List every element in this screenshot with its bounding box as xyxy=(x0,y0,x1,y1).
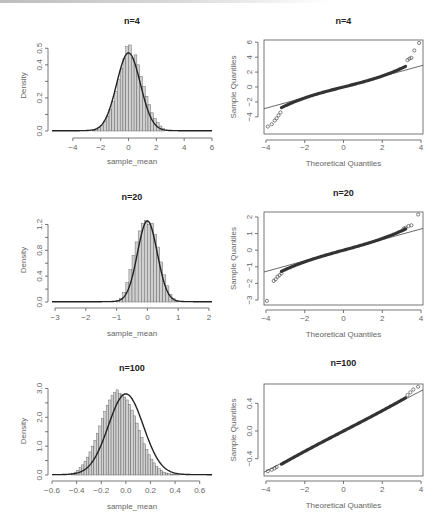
histogram-bar xyxy=(111,396,113,475)
x-tick-label: −4 xyxy=(261,485,271,494)
y-tick-label: 3.0 xyxy=(35,382,44,394)
histogram-bar xyxy=(106,405,108,475)
qq-point xyxy=(277,114,280,117)
histogram-bar xyxy=(106,116,109,131)
y-tick-label: 0.0 xyxy=(245,425,254,437)
qq-point xyxy=(275,117,278,120)
histogram-bar xyxy=(126,47,129,131)
histogram-bar xyxy=(146,450,148,475)
qq-point xyxy=(270,123,273,126)
histogram-bar xyxy=(121,395,123,475)
histogram-bar xyxy=(168,474,170,475)
x-tick-label: −2 xyxy=(300,485,310,494)
x-axis-label: sample_mean xyxy=(107,502,157,511)
histogram-bar xyxy=(123,58,126,131)
x-tick-label: 2 xyxy=(380,485,385,494)
x-tick-label: −0.4 xyxy=(69,486,85,495)
chart-title: n=100 xyxy=(119,363,145,373)
y-tick-label: −2 xyxy=(245,97,254,107)
histogram-bar xyxy=(131,58,134,131)
histogram-bar xyxy=(136,423,138,475)
y-tick-label: 0.4 xyxy=(35,59,44,71)
x-tick-label: 2 xyxy=(380,143,385,152)
histogram-bar xyxy=(148,455,150,475)
x-tick-label: −2 xyxy=(300,314,310,323)
histogram-bar xyxy=(138,430,140,475)
y-tick-label: 1.0 xyxy=(35,440,44,452)
histogram-bar xyxy=(129,45,132,131)
panel-hist_n4: n=4−4−20246sample_mean0.00.20.40.5Densit… xyxy=(19,16,215,166)
x-axis-label: Theoretical Quantiles xyxy=(306,159,382,168)
histogram-bar xyxy=(133,416,135,475)
y-tick-label: 0.0 xyxy=(35,125,44,137)
y-tick-label: 1 xyxy=(245,231,254,236)
y-axis-label: Density xyxy=(19,247,28,274)
qq-point xyxy=(410,224,413,227)
qq-point xyxy=(279,111,282,114)
histogram-bar xyxy=(143,444,145,475)
chart-canvas: n=4−4−20246sample_mean0.00.20.40.5Densit… xyxy=(0,0,442,522)
histogram-bar xyxy=(126,400,128,475)
histogram-bar xyxy=(147,224,150,302)
x-tick-label: −0.6 xyxy=(44,486,60,495)
x-tick-label: 0.4 xyxy=(170,486,182,495)
x-tick-label: 0.2 xyxy=(145,486,157,495)
y-tick-label: 0.2 xyxy=(35,92,44,104)
x-tick-label: 1 xyxy=(176,313,181,322)
x-tick-label: 0.0 xyxy=(120,486,132,495)
y-tick-label: 0.8 xyxy=(35,244,44,256)
histogram-bar xyxy=(123,397,125,475)
histogram-bar xyxy=(150,459,152,475)
x-tick-label: −2 xyxy=(81,313,91,322)
histogram-bar xyxy=(160,471,162,475)
y-tick-label: 2 xyxy=(245,69,254,74)
x-tick-label: 2 xyxy=(154,143,159,152)
histogram-bar xyxy=(109,400,111,475)
qq-point xyxy=(417,213,420,216)
x-tick-label: 0 xyxy=(341,485,346,494)
y-tick-label: 0.4 xyxy=(245,397,254,409)
qq-point-cloud xyxy=(281,398,405,464)
y-axis-label: Density xyxy=(19,72,28,99)
x-tick-label: 0 xyxy=(341,314,346,323)
y-tick-label: 0.4 xyxy=(35,270,44,282)
chart-title: n=20 xyxy=(333,188,354,198)
y-tick-label: 0.0 xyxy=(35,296,44,308)
x-tick-label: 0 xyxy=(126,143,131,152)
y-tick-label: 4 xyxy=(245,54,254,59)
qq-point xyxy=(412,388,415,391)
y-tick-label: 0 xyxy=(245,247,254,252)
qq-point xyxy=(265,299,268,302)
histogram-bar xyxy=(128,404,130,475)
x-axis-label: sample_mean xyxy=(107,329,157,338)
qq-point xyxy=(266,125,269,128)
histogram-bar xyxy=(170,474,172,475)
histogram-bar xyxy=(165,473,167,475)
panel-qq_n20: n=20−4−2024Theoretical Quantiles−3−2−101… xyxy=(229,188,424,339)
histogram-bar xyxy=(153,463,155,475)
histogram-bar xyxy=(173,474,175,475)
histogram-bar xyxy=(155,466,157,475)
y-tick-label: 2.0 xyxy=(35,411,44,423)
chart-title: n=100 xyxy=(331,358,357,368)
y-tick-label: 1.2 xyxy=(35,218,44,230)
x-tick-label: 4 xyxy=(182,143,187,152)
x-tick-label: 6 xyxy=(210,143,215,152)
y-tick-label: 2 xyxy=(245,214,254,219)
panel-qq_n4: n=4−4−2024Theoretical Quantiles−4−20246S… xyxy=(229,16,424,168)
panel-hist_n100: n=100−0.6−0.4−0.20.00.20.40.6sample_mean… xyxy=(19,363,212,511)
chart-title: n=20 xyxy=(122,192,143,202)
panel-hist_n20: n=20−3−2−1012sample_mean0.00.40.81.2Dens… xyxy=(19,192,212,338)
y-tick-label: −3 xyxy=(245,295,254,305)
histogram-bar xyxy=(131,410,133,475)
x-tick-label: −4 xyxy=(261,143,271,152)
x-axis-label: Theoretical Quantiles xyxy=(306,501,382,510)
histogram-bar xyxy=(115,91,118,131)
y-tick-label: −0.4 xyxy=(245,450,254,466)
histogram-bar xyxy=(117,80,120,131)
panel-qq_n100: n=100−4−2024Theoretical Quantiles−0.40.0… xyxy=(229,358,424,510)
y-axis-label: Density xyxy=(19,418,28,445)
qq-point xyxy=(413,49,416,52)
histogram-bar xyxy=(163,472,165,475)
histogram-bar xyxy=(118,394,120,475)
